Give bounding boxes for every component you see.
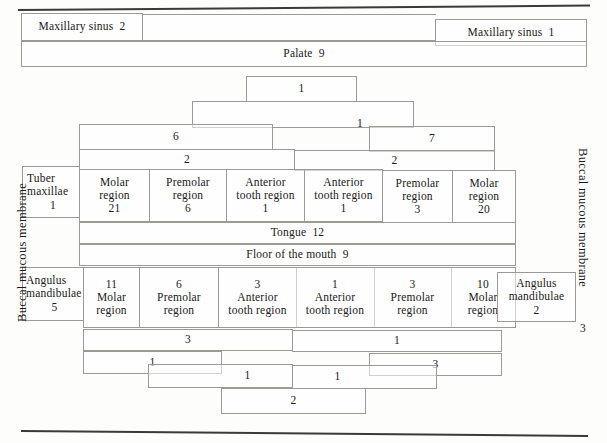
maxilla-region-value: 21 [109, 202, 121, 215]
mandible-apex-box: 2 [221, 388, 366, 414]
mandible-region-cell: 3 Premolar region [374, 267, 452, 328]
maxilla-apex-value: 1 [299, 82, 305, 95]
maxilla-band-left-value: 2 [184, 153, 190, 166]
top-rule [18, 5, 590, 11]
mandible-region-value: 10 [477, 278, 489, 291]
maxilla-region-line2: tooth region [236, 189, 294, 202]
maxilla-region-value: 3 [415, 203, 421, 216]
maxilla-shoulder-right-value: 7 [429, 132, 435, 145]
tongue-value: 12 [312, 226, 324, 238]
maxilla-region-value: 6 [185, 202, 191, 215]
maxilla-region-line1: Anterior [245, 176, 286, 189]
maxilla-region-line1: Molar [469, 177, 498, 190]
mandible-region-cell: 3 Anterior tooth region [218, 267, 297, 328]
maxilla-band-right-value: 2 [392, 154, 398, 167]
maxillary-sinus-left-value: 2 [120, 20, 126, 32]
palate-box: Palate 9 [21, 41, 587, 67]
maxillary-sinus-left-box: Maxillary sinus 2 [21, 13, 143, 41]
mandible-region-line1: Premolar [157, 291, 201, 304]
maxilla-region-line2: region [469, 190, 500, 203]
mandible-band-right-value: 1 [394, 334, 400, 347]
mandible-region-line2: region [164, 304, 195, 317]
mandible-region-line1: Molar [97, 291, 126, 304]
maxilla-region-value: 1 [263, 202, 269, 215]
mandible-inner-right-value: 1 [335, 370, 341, 383]
mandible-region-cell: 1 Anterior tooth region [296, 267, 375, 328]
mandible-region-line2: tooth region [306, 304, 364, 317]
right-side-number: 3 [580, 322, 586, 334]
tongue-label: Tongue [271, 226, 307, 238]
maxillary-sinus-spacer-box [142, 14, 436, 41]
floor-of-mouth-box: Floor of the mouth 9 [79, 244, 516, 266]
maxilla-region-cell: Premolar region 3 [382, 170, 453, 223]
palate-label: Palate [283, 47, 312, 59]
maxilla-shoulder-left-box: 6 [79, 124, 273, 150]
maxilla-region-line2: region [173, 189, 204, 202]
maxilla-region-line1: Premolar [396, 177, 440, 190]
floor-of-mouth-label: Floor of the mouth [246, 248, 336, 260]
angulus-left-line2: mandibulae [26, 287, 82, 300]
palate-value: 9 [319, 47, 325, 59]
maxilla-region-cell: Molar region 21 [79, 169, 150, 222]
maxilla-apex-box: 1 [246, 76, 357, 102]
maxilla-region-cell: Molar region 20 [452, 170, 516, 223]
angulus-left-line1: Angulus [26, 274, 66, 287]
maxilla-region-cell: Anterior tooth region 1 [226, 169, 305, 222]
tuber-maxillae-box: Tuber maxillae 1 [22, 166, 80, 218]
maxilla-region-value: 20 [478, 203, 490, 216]
mandible-band-right-box: 1 [292, 330, 502, 352]
maxilla-region-value: 1 [341, 202, 347, 215]
maxilla-region-line2: region [99, 189, 130, 202]
mandible-apex-value: 2 [291, 394, 297, 407]
angulus-right-value: 2 [534, 304, 540, 317]
angulus-right-line1: Angulus [516, 277, 556, 290]
angulus-mandibulae-right-box: Angulus mandibulae 2 [497, 272, 576, 322]
maxillary-sinus-right-value: 1 [549, 26, 555, 38]
mandible-region-value: 6 [176, 278, 182, 291]
maxilla-shoulder-left-value: 6 [173, 130, 179, 143]
maxilla-region-cell: Anterior tooth region 1 [304, 169, 383, 222]
bottom-rule [21, 430, 588, 437]
tuber-maxillae-value: 1 [50, 199, 56, 212]
mandible-region-line2: region [96, 304, 127, 317]
maxilla-region-line1: Anterior [323, 176, 364, 189]
mandible-region-value: 11 [106, 278, 117, 291]
angulus-right-line2: mandibulae [509, 290, 565, 303]
mandible-inner-right-box: 1 [292, 365, 437, 389]
mandible-region-line2: region [397, 304, 428, 317]
mandible-region-line1: Anterior [315, 291, 356, 304]
maxilla-midline-value: 1 [357, 117, 363, 130]
maxilla-region-line2: region [402, 190, 433, 203]
tongue-box: Tongue 12 [79, 222, 516, 244]
mandible-region-cell: 6 Premolar region [139, 267, 219, 328]
mandible-region-cell: 11 Molar region [83, 267, 140, 328]
mandible-band-left-value: 3 [185, 333, 191, 346]
angulus-mandibulae-left-box: Angulus mandibulae 5 [22, 267, 84, 321]
floor-of-mouth-value: 9 [343, 248, 349, 260]
mandible-band-left-box: 3 [83, 329, 293, 351]
mandible-region-line2: tooth region [228, 304, 286, 317]
diagram-canvas: Maxillary sinus 2 Maxillary sinus 1 Pala… [0, 0, 607, 443]
mandible-inner-left-box: 1 [148, 364, 293, 388]
mandible-region-value: 3 [410, 278, 416, 291]
maxilla-region-line2: tooth region [314, 189, 372, 202]
maxillary-sinus-right-label: Maxillary sinus [468, 26, 543, 38]
mandible-region-line2: region [468, 304, 499, 317]
maxilla-band-right-box: 2 [294, 150, 495, 171]
angulus-left-value: 5 [52, 301, 58, 314]
tuber-maxillae-line1: Tuber [27, 172, 55, 185]
maxilla-region-line1: Molar [100, 176, 129, 189]
mandible-region-line1: Molar [468, 291, 497, 304]
left-side-caption: Buccal mucous membrane [15, 183, 30, 322]
mandible-region-line1: Anterior [237, 291, 278, 304]
maxilla-band-left-box: 2 [79, 149, 295, 170]
mandible-region-line1: Premolar [391, 291, 435, 304]
right-side-caption: Buccal mucous membrane [575, 148, 590, 287]
maxilla-shoulder-right-box: 7 [369, 126, 495, 152]
mandible-region-value: 1 [332, 278, 338, 291]
mandible-region-value: 3 [255, 278, 261, 291]
maxilla-region-cell: Premolar region 6 [149, 169, 227, 222]
maxillary-sinus-left-label: Maxillary sinus [39, 20, 114, 32]
maxilla-region-line1: Premolar [166, 176, 210, 189]
tuber-maxillae-line2: maxillae [27, 185, 68, 198]
